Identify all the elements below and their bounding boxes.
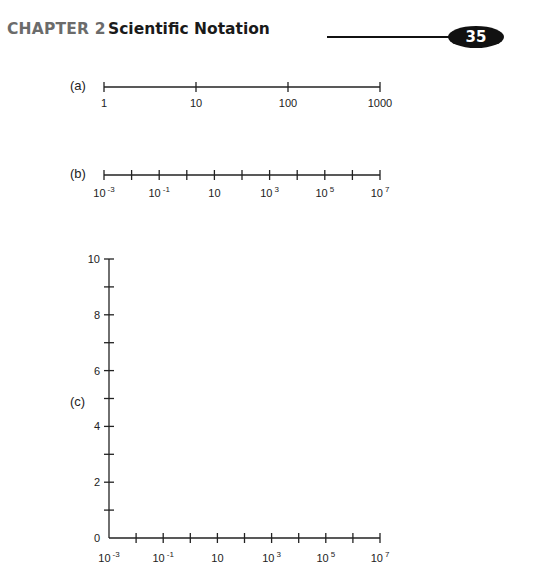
number-line-b-tick-label: 10-3 xyxy=(93,185,115,199)
graph-c-x-tick-label: 103 xyxy=(262,550,281,564)
graph-c-x-tick-label: 107 xyxy=(371,550,390,564)
graph-c-y-tick-label: 4 xyxy=(94,420,100,432)
number-line-a-tick-label: 1000 xyxy=(368,97,392,109)
graph-c-y-tick-label: 8 xyxy=(94,309,100,321)
graph-c-y-tick-label: 0 xyxy=(94,532,100,544)
figure: 110100100010-310-11010310510710-310-1101… xyxy=(0,0,547,574)
graph-c-y-tick-label: 6 xyxy=(94,365,100,377)
number-line-b-tick-label: 103 xyxy=(260,185,279,199)
number-line-a-tick-label: 1 xyxy=(101,97,107,109)
graph-c-x-tick-label: 105 xyxy=(316,550,335,564)
number-line-a-tick-label: 10 xyxy=(190,97,202,109)
number-line-b-tick-label: 10 xyxy=(208,187,220,199)
graph-c-x-tick-label: 10-3 xyxy=(98,550,120,564)
graph-c-x-tick-label: 10-1 xyxy=(153,550,175,564)
number-line-b-tick-label: 107 xyxy=(371,185,390,199)
number-line-a-tick-label: 100 xyxy=(279,97,297,109)
number-line-b-tick-label: 105 xyxy=(315,185,334,199)
graph-c-x-tick-label: 10 xyxy=(211,552,223,564)
graph-c-y-tick-label: 2 xyxy=(94,476,100,488)
graph-c-y-tick-label: 10 xyxy=(88,253,100,265)
number-line-b-tick-label: 10-1 xyxy=(149,185,171,199)
